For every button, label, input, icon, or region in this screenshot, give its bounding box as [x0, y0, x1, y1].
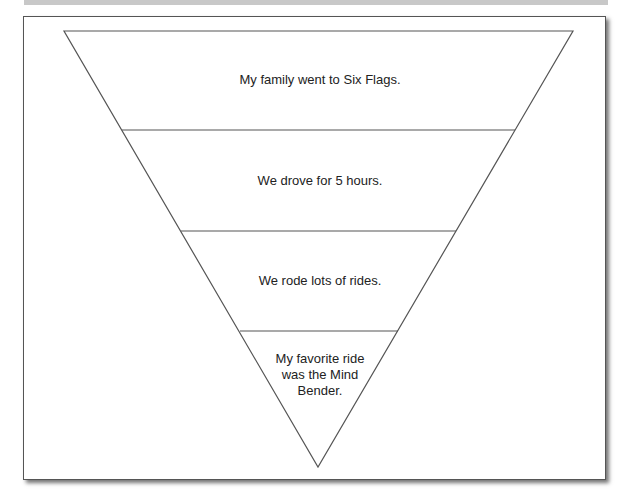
level-2-text: We drove for 5 hours.: [170, 173, 470, 189]
pyramid-outline: [64, 31, 573, 467]
level-1-text: My family went to Six Flags.: [170, 72, 470, 88]
level-3-text: We rode lots of rides.: [170, 273, 470, 289]
level-4-text: My favorite ride was the Mind Bender.: [272, 351, 368, 399]
